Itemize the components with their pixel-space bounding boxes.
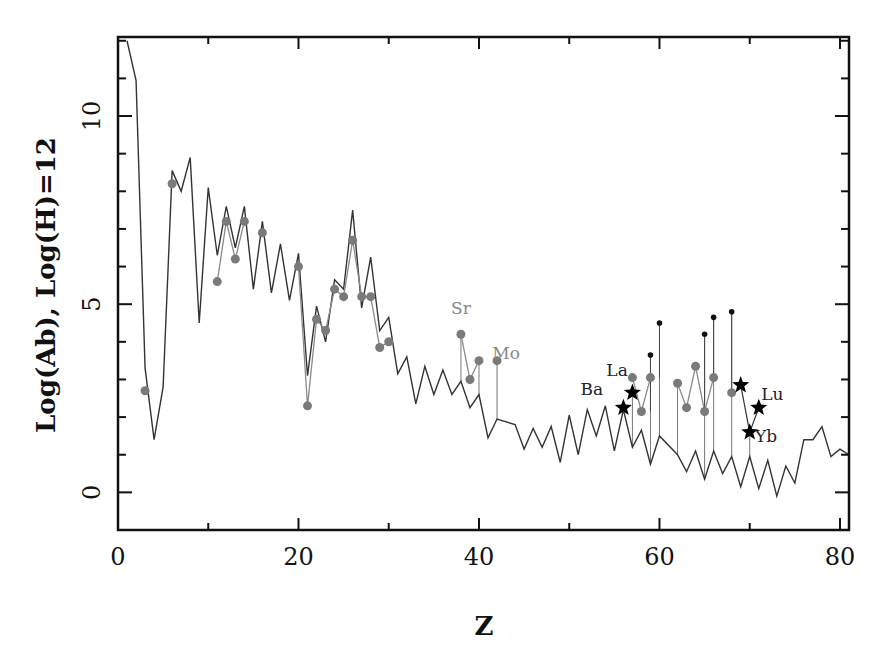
observed-point: [682, 403, 691, 412]
y-tick-label: 0: [78, 485, 106, 500]
observed-point: [628, 373, 637, 382]
observed-line: [678, 366, 714, 411]
observed-point: [384, 337, 393, 346]
observed-point: [673, 379, 682, 388]
y-axis-title: Log(Ab), Log(H)=12: [31, 137, 61, 433]
observed-line: [298, 240, 388, 406]
observed-point: [231, 255, 240, 264]
observed-point: [141, 386, 150, 395]
observed-point: [357, 292, 366, 301]
observed-point: [637, 407, 646, 416]
element-label-yb: Yb: [754, 426, 777, 446]
plot-frame: [118, 37, 849, 530]
upper-limit-point: [711, 315, 717, 321]
observed-point: [474, 356, 483, 365]
observed-point: [330, 285, 339, 294]
solar-abundance-line: [127, 41, 849, 496]
observed-point: [727, 388, 736, 397]
observed-point: [646, 373, 655, 382]
x-tick-label: 20: [283, 543, 314, 571]
observed-point: [258, 228, 267, 237]
observed-point: [700, 407, 709, 416]
element-label-mo: Mo: [492, 343, 520, 363]
observed-point: [348, 236, 357, 245]
observed-point: [465, 375, 474, 384]
element-label-ba: Ba: [580, 379, 603, 399]
observed-point: [294, 262, 303, 271]
upper-limit-point: [657, 320, 663, 326]
y-axis: 0510: [78, 41, 849, 530]
x-axis-title: Z: [475, 611, 494, 641]
y-tick-label: 5: [78, 297, 106, 312]
upper-limit-point: [648, 352, 654, 358]
observed-point: [375, 343, 384, 352]
observed-point: [321, 326, 330, 335]
observed-point: [240, 217, 249, 226]
plot-area: SrMoLaBaLuYb: [118, 37, 849, 530]
observed-line: [461, 334, 479, 379]
upper-limit-point: [702, 332, 708, 338]
y-tick-label: 10: [78, 101, 106, 132]
observed-point: [312, 315, 321, 324]
observed-point: [222, 217, 231, 226]
abundance-chart: SrMoLaBaLuYb 020406080 0510 Z Log(Ab), L…: [0, 0, 878, 652]
element-label-la: La: [606, 360, 627, 380]
upper-limit-point: [729, 309, 735, 315]
x-tick-label: 0: [110, 543, 125, 571]
element-label-sr: Sr: [451, 298, 472, 318]
observed-point: [456, 330, 465, 339]
x-axis: 020406080: [110, 37, 855, 571]
x-tick-label: 40: [464, 543, 495, 571]
element-label-lu: Lu: [761, 384, 783, 404]
x-tick-label: 80: [825, 543, 856, 571]
observed-point: [709, 373, 718, 382]
observed-point: [366, 292, 375, 301]
observed-point: [213, 277, 222, 286]
observed-point: [168, 179, 177, 188]
observed-point: [303, 401, 312, 410]
observed-point: [339, 292, 348, 301]
x-tick-label: 60: [644, 543, 675, 571]
observed-point: [691, 362, 700, 371]
